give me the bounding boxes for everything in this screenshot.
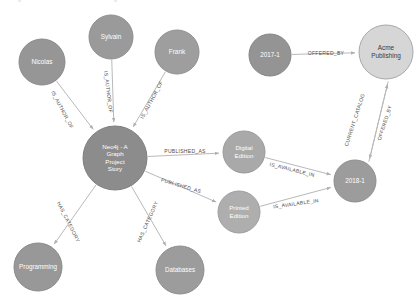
relationship-label: IS_AVAILABLE_IN <box>269 161 315 178</box>
relationship-label: HAS_CATEGORY <box>136 200 160 243</box>
relationship-label: OFFERED_BY <box>308 50 345 56</box>
relationship-label: PUBLISHED_AS <box>164 148 206 154</box>
node-printed[interactable]: PrintedEdition <box>218 191 260 233</box>
node-circle[interactable] <box>156 246 204 294</box>
relationship-label: PUBLISHED_AS <box>160 176 202 194</box>
node-circle[interactable] <box>14 243 62 291</box>
graph-diagram[interactable]: IS_AUTHOR_OFIS_AUTHOR_OFIS_AUTHOR_OFPUBL… <box>0 0 418 301</box>
node-databases[interactable]: Databases <box>156 246 204 294</box>
relationship-label: IS_AVAILABLE_IN <box>273 197 319 209</box>
node-cat2018[interactable]: 2018-1 <box>334 160 376 202</box>
node-acme[interactable]: AcmePublishing <box>359 25 413 79</box>
relationship-label: IS_AUTHOR_OF <box>50 90 75 130</box>
node-circle[interactable] <box>89 15 133 59</box>
node-circle[interactable] <box>359 25 413 79</box>
node-nicolas[interactable]: Nicolas <box>19 39 65 85</box>
graph-canvas[interactable]: IS_AUTHOR_OFIS_AUTHOR_OFIS_AUTHOR_OFPUBL… <box>0 0 418 301</box>
node-circle[interactable] <box>218 191 260 233</box>
node-book[interactable]: Neo4j - AGraphProjectStory <box>83 126 147 190</box>
node-circle[interactable] <box>19 39 65 85</box>
node-circle[interactable] <box>223 131 265 173</box>
node-programming[interactable]: Programming <box>14 243 62 291</box>
nodes-layer[interactable]: NicolasSylvainFrankNeo4j - AGraphProject… <box>14 15 413 294</box>
node-circle[interactable] <box>249 34 291 76</box>
relationship-label: CURRENT_CATALOG <box>343 93 366 147</box>
node-circle[interactable] <box>83 126 147 190</box>
node-frank[interactable]: Frank <box>155 30 199 74</box>
node-digital[interactable]: DigitalEdition <box>223 131 265 173</box>
relationship-label: IS_AUTHOR_OF <box>139 80 164 120</box>
node-circle[interactable] <box>155 30 199 74</box>
node-sylvain[interactable]: Sylvain <box>89 15 133 59</box>
node-cat2017[interactable]: 2017-1 <box>249 34 291 76</box>
node-circle[interactable] <box>334 160 376 202</box>
